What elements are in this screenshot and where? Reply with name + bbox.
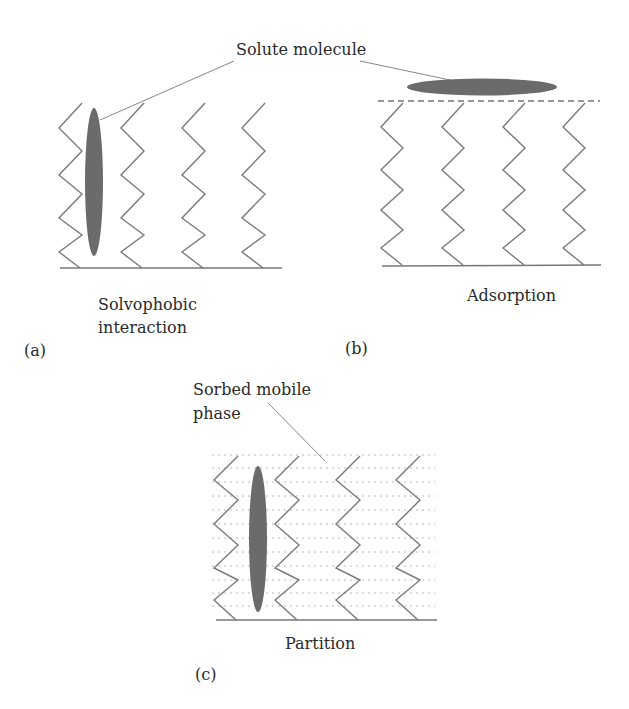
panel-b-chains: [381, 103, 585, 265]
solute-molecule-label: Solute molecule: [236, 40, 366, 60]
panel-b-solute-molecule: [407, 79, 557, 96]
panel-a-diagram: [59, 103, 282, 268]
panel-c-solute-molecule: [249, 466, 267, 612]
panel-c-diagram: [212, 403, 437, 620]
panel-c-callout-line2: phase: [193, 404, 241, 424]
panel-c-sorbed-mobile-phase-dotted-lines: [212, 455, 435, 606]
panel-a-caption-line1: Solvophobic: [98, 295, 197, 315]
panel-b-surface-line: [382, 265, 601, 266]
callout-line-solute-a: [100, 61, 234, 120]
callout-line-solute-b: [360, 61, 450, 80]
panel-b-diagram: [378, 79, 601, 267]
panel-a-label: (a): [24, 341, 46, 361]
diagram-canvas: [0, 0, 629, 709]
panel-c-label: (c): [195, 665, 216, 685]
panel-c-callout-line1: Sorbed mobile: [193, 380, 311, 400]
panel-c-caption: Partition: [285, 634, 355, 654]
panel-b-caption: Adsorption: [467, 286, 556, 306]
panel-c-chains: [214, 456, 420, 620]
panel-b-label: (b): [345, 339, 368, 359]
callout-line-sorbed-phase: [268, 403, 325, 461]
panel-a-caption-line2: interaction: [98, 318, 187, 338]
panel-a-solute-molecule: [85, 108, 103, 256]
